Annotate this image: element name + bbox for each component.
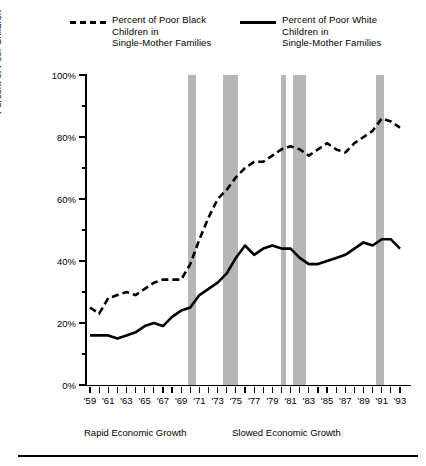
x-axis-tick — [162, 387, 163, 393]
x-axis-tick-label: '61 — [102, 395, 114, 406]
x-axis-tick-label: '67 — [157, 395, 169, 406]
solid-line-swatch-icon — [240, 17, 276, 28]
y-axis-tick-label: 80% — [57, 132, 76, 143]
x-axis-tick — [217, 387, 218, 393]
chart-legend: Percent of Poor Black Children in Single… — [70, 14, 420, 49]
x-axis-tick — [226, 387, 227, 393]
y-axis-tick — [79, 74, 86, 76]
x-axis-tick — [144, 387, 145, 393]
x-axis-tick — [190, 387, 191, 393]
x-axis-tick-label: '77 — [248, 395, 260, 406]
x-axis-tick — [381, 387, 382, 393]
dashed-line-swatch-icon — [70, 17, 106, 28]
annotation-rapid-economic-growth: Rapid Economic Growth — [84, 427, 186, 438]
x-axis-tick-label: '89 — [357, 395, 369, 406]
x-axis-tick — [153, 387, 154, 393]
x-axis-tick — [308, 387, 309, 393]
x-axis-tick — [363, 387, 364, 393]
x-axis-tick — [171, 387, 172, 393]
x-axis-tick — [354, 387, 355, 393]
x-axis-tick-label: '83 — [303, 395, 315, 406]
x-axis-tick-label: '93 — [394, 395, 406, 406]
x-axis-tick — [290, 387, 291, 393]
x-axis-tick — [390, 387, 391, 393]
x-axis-tick-label: '69 — [175, 395, 187, 406]
y-axis-tick — [79, 322, 86, 324]
y-axis-tick — [79, 136, 86, 138]
x-axis-tick — [254, 387, 255, 393]
x-axis-tick — [336, 387, 337, 393]
x-axis-tick — [208, 387, 209, 393]
y-axis-title: Percent of Poor Children — [0, 10, 3, 114]
series-line — [90, 118, 400, 313]
y-axis-tick-label: 60% — [57, 194, 76, 205]
legend-item-poor-black-children: Percent of Poor Black Children in Single… — [70, 14, 230, 49]
x-axis-tick — [345, 387, 346, 393]
x-axis-tick-label: '79 — [266, 395, 278, 406]
y-axis-tick-label: 20% — [57, 318, 76, 329]
y-axis-tick-label: 40% — [57, 256, 76, 267]
y-axis-tick-label: 100% — [52, 70, 76, 81]
x-axis-tick-label: '65 — [139, 395, 151, 406]
x-axis-tick — [117, 387, 118, 393]
annotation-slowed-economic-growth: Slowed Economic Growth — [232, 427, 341, 438]
x-axis-tick-label: '75 — [230, 395, 242, 406]
x-axis-tick-label: '87 — [339, 395, 351, 406]
legend-label-poor-black-children: Percent of Poor Black Children in Single… — [112, 14, 211, 49]
x-axis-tick — [372, 387, 373, 393]
legend-item-poor-white-children: Percent of Poor White Children in Single… — [240, 14, 415, 49]
y-axis-tick — [79, 260, 86, 262]
plot-area: 0%20%40%60%80%100% '59'61'63'65'67'69'71… — [86, 75, 410, 385]
y-axis-tick — [79, 384, 86, 386]
x-axis-tick — [99, 387, 100, 393]
x-axis-tick-label: '63 — [120, 395, 132, 406]
series-line — [90, 239, 400, 338]
y-axis-tick-label: 0% — [62, 380, 76, 391]
x-axis-tick — [281, 387, 282, 393]
x-axis-tick — [299, 387, 300, 393]
x-axis-tick-label: '85 — [321, 395, 333, 406]
x-axis-tick — [181, 387, 182, 393]
x-axis-tick — [235, 387, 236, 393]
x-axis-tick — [263, 387, 264, 393]
x-axis-tick-label: '73 — [211, 395, 223, 406]
x-axis-tick — [272, 387, 273, 393]
x-axis-tick-label: '81 — [284, 395, 296, 406]
x-axis-tick — [135, 387, 136, 393]
x-axis-tick-label: '71 — [193, 395, 205, 406]
x-axis-tick — [126, 387, 127, 393]
x-axis-tick — [317, 387, 318, 393]
x-axis-tick — [199, 387, 200, 393]
bottom-divider — [18, 455, 418, 457]
x-axis-tick — [89, 387, 90, 393]
x-axis-tick-label: '91 — [376, 395, 388, 406]
legend-label-poor-white-children: Percent of Poor White Children in Single… — [282, 14, 381, 49]
x-axis-tick-label: '59 — [84, 395, 96, 406]
x-axis-tick — [326, 387, 327, 393]
x-axis-tick — [108, 387, 109, 393]
x-axis-tick — [244, 387, 245, 393]
y-axis-tick — [79, 198, 86, 200]
series-layer — [86, 75, 410, 385]
x-axis-tick — [399, 387, 400, 393]
poverty-chart-figure: Percent of Poor Black Children in Single… — [0, 0, 426, 466]
